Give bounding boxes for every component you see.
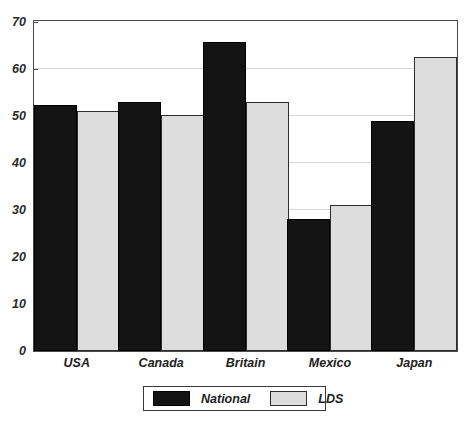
y-axis-tick-label: 30 [12, 203, 26, 217]
y-axis-tick-label: 10 [12, 297, 26, 311]
bar-national-japan [371, 121, 414, 350]
bar-lds-japan [414, 57, 457, 351]
bar-lds-britain [246, 102, 289, 351]
y-axis-tick [33, 351, 38, 352]
bar-lds-mexico [330, 205, 373, 351]
x-axis-label-usa: USA [64, 356, 90, 370]
legend-swatch-lds [270, 391, 307, 406]
y-axis-tick-label: 70 [12, 15, 26, 29]
bar-national-usa [34, 105, 77, 351]
legend-swatch-national [153, 391, 190, 406]
chart-title [0, 0, 467, 1]
y-axis-tick-label: 20 [12, 250, 26, 264]
legend-label-lds: LDS [318, 392, 343, 406]
bar-national-britain [203, 42, 246, 350]
x-axis-label-britain: Britain [226, 356, 266, 370]
legend-item-national[interactable]: National [153, 387, 250, 410]
legend-label-national: National [201, 392, 250, 406]
plot-area [35, 22, 457, 351]
bar-national-mexico [287, 219, 330, 351]
y-axis: 010203040506070 [0, 0, 33, 424]
y-axis-tick-label: 0 [19, 344, 26, 358]
y-axis-tick-label: 50 [12, 109, 26, 123]
bar-lds-usa [77, 111, 120, 351]
chart-legend: NationalLDS [143, 386, 326, 411]
x-axis-label-canada: Canada [139, 356, 184, 370]
x-axis-label-mexico: Mexico [309, 356, 351, 370]
bar-chart: 010203040506070 USACanadaBritainMexicoJa… [0, 0, 467, 424]
y-axis-tick-label: 40 [12, 156, 26, 170]
bar-lds-canada [161, 115, 204, 351]
legend-item-lds[interactable]: LDS [270, 387, 343, 410]
x-axis-label-japan: Japan [396, 356, 432, 370]
y-axis-tick-label: 60 [12, 62, 26, 76]
bar-national-canada [118, 102, 161, 350]
